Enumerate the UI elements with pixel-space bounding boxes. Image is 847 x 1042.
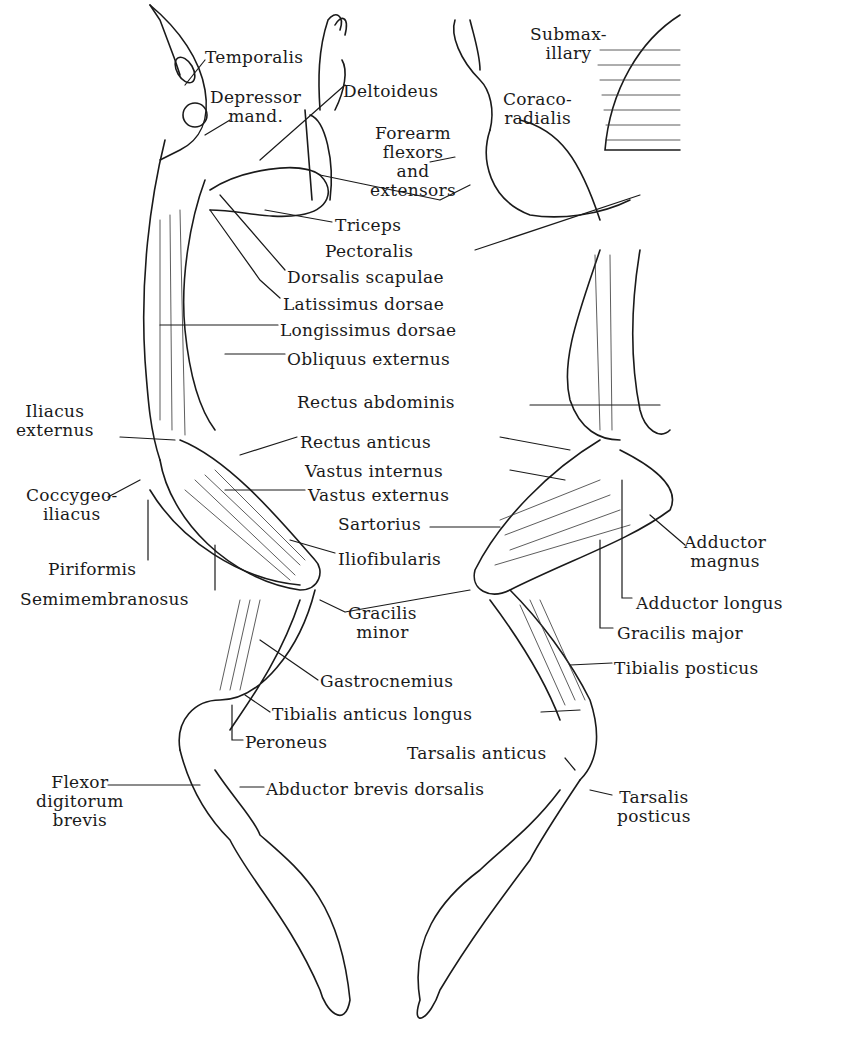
- right-thigh: [474, 440, 672, 594]
- label-depressor: Depressor mand.: [210, 88, 301, 126]
- label-pectoralis: Pectoralis: [325, 242, 413, 261]
- label-latissimus: Latissimus dorsae: [283, 295, 444, 314]
- label-gracilis-minor: Gracilis minor: [348, 604, 417, 642]
- label-dorsalis: Dorsalis scapulae: [287, 268, 444, 287]
- right-body: [567, 250, 670, 440]
- label-tarsalis-post: Tarsalis posticus: [617, 788, 691, 826]
- label-piriformis: Piriformis: [48, 560, 136, 579]
- label-rectus-ant: Rectus anticus: [300, 433, 431, 452]
- label-forearm: Forearm flexors and extensors: [370, 124, 456, 200]
- label-flexor: Flexor digitorum brevis: [36, 773, 124, 830]
- left-thigh: [160, 440, 320, 590]
- left-body: [144, 140, 165, 460]
- label-longissimus: Longissimus dorsae: [280, 321, 456, 340]
- label-iliofibularis: Iliofibularis: [338, 550, 441, 569]
- right-foot: [417, 780, 580, 1018]
- label-adductor-longus: Adductor longus: [636, 594, 783, 613]
- label-tibialis-ant: Tibialis anticus longus: [272, 705, 472, 724]
- label-semimem: Semimembranosus: [20, 590, 189, 609]
- label-vastus-ext: Vastus externus: [308, 486, 449, 505]
- label-deltoideus: Deltoideus: [343, 82, 438, 101]
- label-obliquus: Obliquus externus: [287, 350, 450, 369]
- label-coccygeo: Coccygeo- iliacus: [26, 486, 118, 524]
- label-iliacus: Iliacus externus: [16, 402, 94, 440]
- label-tarsalis-ant: Tarsalis anticus: [407, 744, 547, 763]
- label-rectus-abd: Rectus abdominis: [297, 393, 455, 412]
- label-coraco: Coraco- radialis: [503, 90, 572, 128]
- label-temporalis: Temporalis: [205, 48, 303, 67]
- label-sartorius: Sartorius: [338, 515, 421, 534]
- label-submax: Submax- illary: [530, 25, 607, 63]
- right-hand: [454, 20, 492, 130]
- label-vastus-int: Vastus internus: [305, 462, 443, 481]
- label-tibialis-post: Tibialis posticus: [614, 659, 759, 678]
- right-submaxillary: [605, 15, 680, 150]
- label-gracilis-major: Gracilis major: [617, 624, 743, 643]
- label-abductor: Abductor brevis dorsalis: [266, 780, 484, 799]
- left-head: [150, 5, 206, 160]
- label-triceps: Triceps: [335, 216, 401, 235]
- label-peroneus: Peroneus: [245, 733, 327, 752]
- label-gastrocnemius: Gastrocnemius: [320, 672, 453, 691]
- label-adductor-magnus: Adductor magnus: [684, 533, 766, 571]
